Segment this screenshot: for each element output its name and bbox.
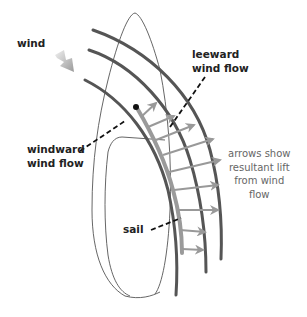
sail-label: sail [123,222,144,236]
wind-label: wind [17,36,45,50]
leeward-label-line2: wind flow [192,61,249,75]
lift-note-line3: from wind [228,174,291,188]
sail-leader [151,218,181,230]
windward-label: windward wind flow [27,142,85,170]
lift-note: arrows show resultant lift from wind flo… [228,147,291,201]
flow-line-3 [85,80,177,295]
lift-note-line2: resultant lift [228,161,291,175]
lift-note-line4: flow [228,188,291,202]
windward-label-line1: windward [27,142,85,156]
windward-leader [80,121,125,151]
leeward-label-line1: leeward [192,47,249,61]
windward-label-line2: wind flow [27,156,85,170]
leeward-label: leeward wind flow [192,47,249,75]
mast-dot [133,104,139,110]
gradient-arrow-icon [55,50,74,72]
sail-lift-diagram: wind leeward wind flow windward wind flo… [0,0,307,317]
lift-note-line1: arrows show [228,147,291,161]
